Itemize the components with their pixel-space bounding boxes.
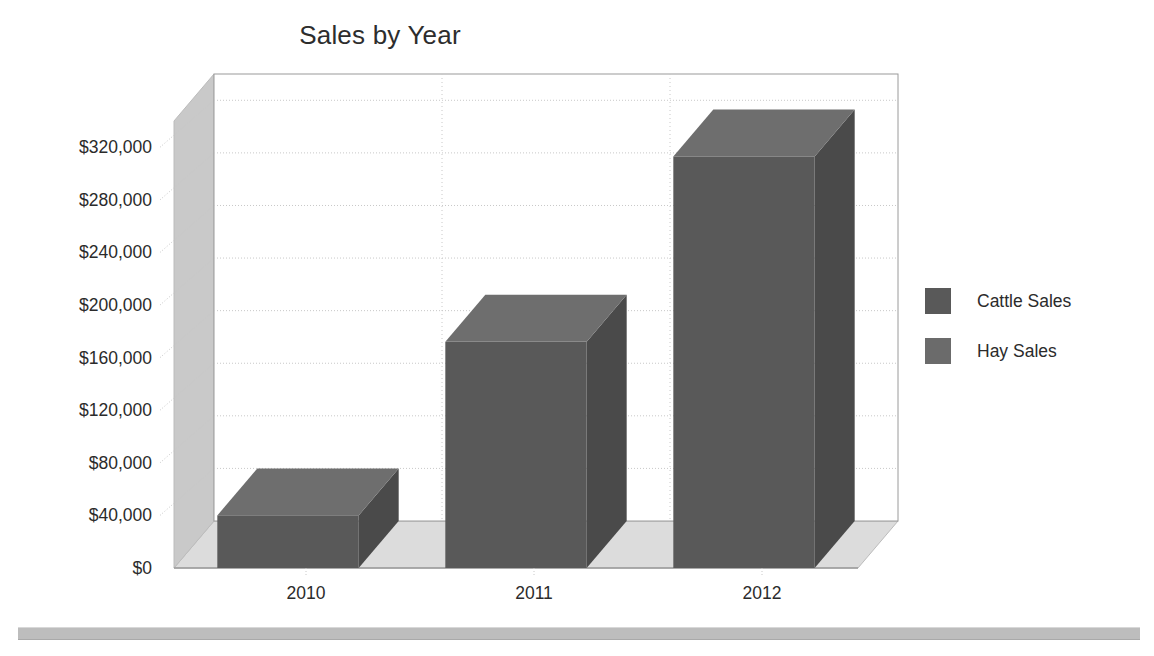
legend-item-hay-sales[interactable]: Hay Sales	[925, 326, 1145, 376]
y-tick-label: $80,000	[89, 453, 153, 473]
y-tick-label: $320,000	[79, 137, 152, 157]
footer-divider	[18, 627, 1140, 640]
x-axis-tick-labels: 201020112012	[287, 568, 782, 603]
y-tick-label: $280,000	[79, 190, 152, 210]
x-tick-label: 2010	[287, 583, 326, 603]
bar-2012[interactable]	[673, 109, 854, 568]
y-tick-label: $40,000	[89, 505, 153, 525]
legend-label-cattle-sales: Cattle Sales	[977, 291, 1071, 312]
x-tick-label: 2011	[515, 583, 553, 603]
y-tick-label: $120,000	[79, 400, 152, 420]
chart-left-wall	[174, 74, 214, 568]
legend-item-cattle-sales[interactable]: Cattle Sales	[925, 276, 1145, 326]
legend-label-hay-sales: Hay Sales	[977, 341, 1057, 362]
bar-side-face	[815, 109, 855, 568]
bar-side-face	[587, 295, 627, 568]
legend-swatch-hay-sales	[925, 338, 951, 364]
bar-front-face	[445, 342, 586, 568]
y-tick-label: $200,000	[79, 295, 152, 315]
chart-legend: Cattle Sales Hay Sales	[925, 276, 1145, 376]
y-tick-label: $160,000	[79, 348, 152, 368]
chart-container: Sales by Year $0$40,000$80,000$120,000$1…	[0, 0, 1154, 656]
bar-front-face	[217, 515, 358, 568]
bar-front-face	[673, 156, 814, 568]
y-tick-label: $240,000	[79, 242, 152, 262]
x-tick-label: 2012	[743, 583, 782, 603]
bar-2011[interactable]	[445, 295, 626, 568]
legend-swatch-cattle-sales	[925, 288, 951, 314]
y-axis-tick-labels: $0$40,000$80,000$120,000$160,000$200,000…	[79, 137, 152, 578]
y-tick-label: $0	[133, 558, 153, 578]
